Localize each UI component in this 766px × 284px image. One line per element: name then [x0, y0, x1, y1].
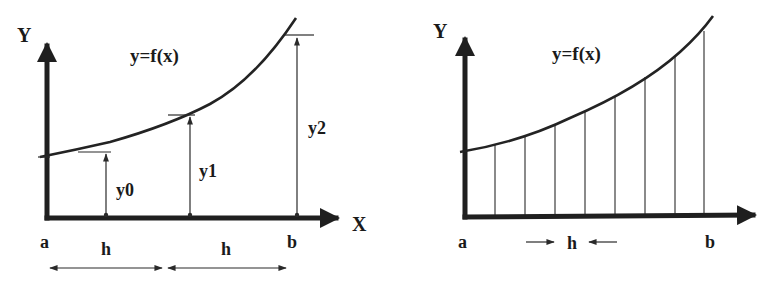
ordinate-label-y1: y1: [199, 161, 217, 181]
ordinate-label-y0: y0: [116, 180, 134, 200]
function-label: y=f(x): [552, 43, 601, 65]
x-label-a: a: [40, 232, 49, 252]
ordinate-label-y2: y2: [308, 118, 326, 138]
interval-label-h1: h: [101, 239, 111, 259]
ordinate-y2-foot: [295, 213, 299, 217]
interval-label-h: h: [567, 233, 577, 253]
x-label-b: b: [287, 232, 297, 252]
ordinate-y1-foot: [188, 213, 192, 217]
x-label-a: a: [458, 232, 467, 252]
x-axis: [465, 215, 753, 217]
diagram-canvas: Y y=f(x) y0 y1 y2 X a h h b: [0, 0, 766, 284]
left-diagram: Y y=f(x) y0 y1 y2 X a h h b: [17, 18, 367, 268]
ordinate-y0-foot: [104, 213, 108, 217]
ordinate-y1: [168, 115, 195, 217]
y-axis-label: Y: [17, 24, 32, 46]
function-curve: [40, 18, 296, 157]
y-axis-label: Y: [433, 20, 448, 42]
x-axis-label: X: [352, 213, 367, 235]
ordinate-y0: [78, 152, 111, 217]
x-label-b: b: [705, 232, 715, 252]
function-label: y=f(x): [130, 45, 179, 67]
right-diagram: Y y=f(x) a h b: [433, 16, 753, 253]
interval-label-h2: h: [221, 239, 231, 259]
